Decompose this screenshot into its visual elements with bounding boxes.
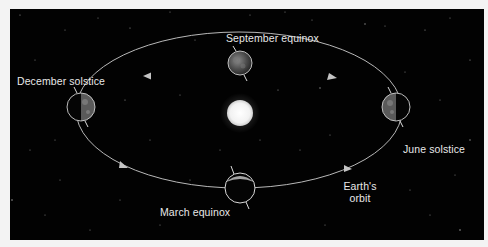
label-september-equinox: September equinox: [226, 32, 319, 44]
label-march-equinox: March equinox: [160, 206, 230, 218]
label-june-solstice: June solstice: [403, 143, 465, 155]
arrow-bottom-left-icon: [119, 161, 128, 168]
earth-september-equinox: [228, 46, 252, 81]
arrow-bottom-right-icon: [344, 165, 352, 172]
label-earths-orbit: Earth's orbit: [335, 180, 385, 204]
arrow-top-left-icon: [143, 73, 151, 80]
earth-december-solstice: [67, 87, 95, 127]
label-december-solstice: December solstice: [17, 75, 105, 87]
sun: [220, 93, 260, 133]
earth-june-solstice: [382, 87, 410, 127]
label-earths-orbit-line1: Earth's: [335, 180, 385, 192]
arrow-top-right-icon: [327, 73, 337, 80]
earth-march-equinox: [225, 166, 255, 209]
label-earths-orbit-line2: orbit: [335, 192, 385, 204]
